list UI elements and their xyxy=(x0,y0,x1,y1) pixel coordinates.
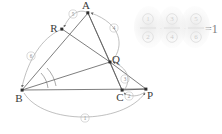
arc-label-4-text: 4 xyxy=(113,25,116,31)
segment-BQ xyxy=(22,62,110,90)
vertex-label-C: C xyxy=(116,91,123,103)
segment-group xyxy=(22,13,146,90)
figure-canvas: A R Q B C P 1 2 3 4 5 6 xyxy=(0,0,222,134)
arc-label-1-text: 1 xyxy=(84,115,87,121)
vertex-label-P: P xyxy=(147,89,153,101)
vertex-dot-A xyxy=(86,11,89,14)
formula-numerator-2: 3 xyxy=(170,15,174,23)
formula-group: 1 2 · 3 4 · 5 6 xyxy=(140,14,218,43)
measure-arc-group xyxy=(22,11,145,117)
arc-label-1: 1 xyxy=(81,114,89,122)
arc-label-6-text: 6 xyxy=(30,53,33,59)
formula-denominator-3: 6 xyxy=(194,33,198,41)
vertex-label-B: B xyxy=(15,92,22,104)
vertex-label-R: R xyxy=(50,22,58,34)
arc-label-5: 5 xyxy=(69,10,77,18)
angle-arc-B-inner xyxy=(41,73,48,88)
formula-equals: =1 xyxy=(205,22,218,36)
formula-denominator-2: 4 xyxy=(170,33,174,41)
formula-fraction-2: 3 4 xyxy=(164,14,180,43)
arc-label-3-text: 3 xyxy=(124,76,127,82)
arc-label-5-text: 5 xyxy=(72,11,75,17)
angle-mark-group xyxy=(41,68,56,88)
vertex-label-Q: Q xyxy=(112,53,120,65)
vertex-label-A: A xyxy=(82,0,90,11)
formula-numerator-1: 1 xyxy=(146,15,150,23)
formula-fraction-1: 1 2 xyxy=(140,14,156,43)
vertex-group xyxy=(21,11,148,91)
formula-operator-1: · xyxy=(160,25,162,33)
formula-numerator-3: 5 xyxy=(194,15,198,23)
formula-denominator-1: 2 xyxy=(146,33,150,41)
angle-arc-B-outer xyxy=(47,68,56,86)
arc-label-4: 4 xyxy=(110,24,118,32)
geometry-diagram: A R Q B C P 1 2 3 4 5 6 xyxy=(0,0,222,134)
arc-label-2-text: 2 xyxy=(128,93,131,99)
vertex-dot-R xyxy=(60,28,63,31)
formula-fraction-3: 5 6 xyxy=(188,14,204,43)
formula-operator-2: · xyxy=(184,25,186,33)
